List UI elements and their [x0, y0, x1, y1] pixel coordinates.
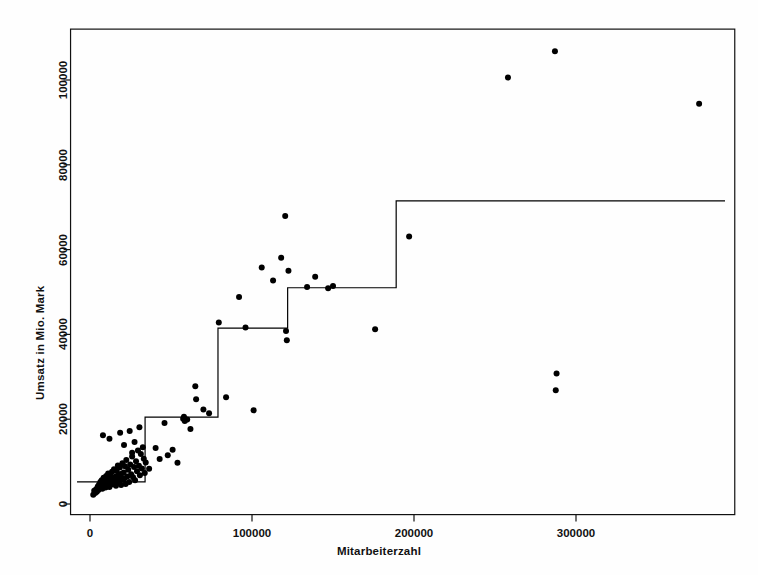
- y-tick-label: 20000: [57, 369, 69, 469]
- scatter-point: [162, 420, 168, 426]
- chart-figure: Mitarbeiterzahl Umsatz in Mio. Mark 0100…: [0, 0, 758, 575]
- scatter-point: [552, 48, 558, 54]
- scatter-point: [184, 417, 190, 423]
- scatter-point: [165, 452, 171, 458]
- scatter-point: [554, 370, 560, 376]
- x-tick-label: 200000: [364, 527, 464, 539]
- step-function-line: [77, 201, 725, 482]
- scatter-point: [330, 283, 336, 289]
- scatter-point: [278, 255, 284, 261]
- scatter-point: [123, 457, 129, 463]
- x-tick-label: 100000: [202, 527, 302, 539]
- plot-canvas: [0, 0, 758, 575]
- scatter-point: [143, 459, 149, 465]
- scatter-point: [372, 326, 378, 332]
- scatter-point: [136, 424, 142, 430]
- scatter-point: [282, 213, 288, 219]
- scatter-point: [174, 460, 180, 466]
- scatter-point: [696, 101, 702, 107]
- scatter-point: [285, 268, 291, 274]
- scatter-point: [121, 442, 127, 448]
- plot-border: [71, 29, 735, 514]
- scatter-point: [129, 450, 135, 456]
- scatter-point: [553, 387, 559, 393]
- scatter-point: [153, 445, 159, 451]
- scatter-point: [132, 439, 138, 445]
- scatter-point: [170, 447, 176, 453]
- scatter-point: [100, 432, 106, 438]
- scatter-point: [406, 233, 412, 239]
- scatter-point: [236, 294, 242, 300]
- scatter-point: [206, 410, 212, 416]
- scatter-point: [243, 325, 249, 331]
- scatter-point: [140, 444, 146, 450]
- step-function-path: [77, 201, 725, 482]
- scatter-point: [223, 394, 229, 400]
- scatter-point: [200, 406, 206, 412]
- scatter-point: [312, 274, 318, 280]
- y-tick-label: 100000: [57, 30, 69, 130]
- x-tick-label: 0: [40, 527, 140, 539]
- scatter-point: [284, 337, 290, 343]
- scatter-point: [192, 383, 198, 389]
- scatter-point: [216, 320, 222, 326]
- scatter-point: [146, 466, 152, 472]
- scatter-point: [304, 284, 310, 290]
- scatter-point: [117, 430, 123, 436]
- scatter-point: [251, 407, 257, 413]
- scatter-point: [132, 477, 138, 483]
- scatter-point: [106, 436, 112, 442]
- scatter-point: [259, 264, 265, 270]
- scatter-point: [126, 479, 132, 485]
- plot-frame: [71, 29, 735, 514]
- y-tick-label: 0: [57, 454, 69, 554]
- x-axis-title: Mitarbeiterzahl: [0, 545, 758, 557]
- scatter-point: [187, 426, 193, 432]
- scatter-point: [270, 278, 276, 284]
- scatter-point: [127, 428, 133, 434]
- scatter-point: [505, 74, 511, 80]
- x-tick-label: 300000: [526, 527, 626, 539]
- scatter-point: [157, 456, 163, 462]
- scatter-point: [142, 470, 148, 476]
- y-axis-title: Umsatz in Mio. Mark: [34, 286, 46, 400]
- scatter-point: [283, 328, 289, 334]
- scatter-point: [193, 396, 199, 402]
